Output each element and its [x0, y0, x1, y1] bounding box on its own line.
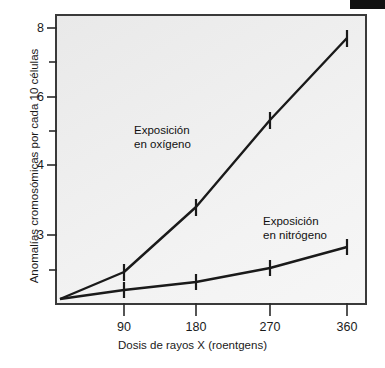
series-annotation-oxigeno-line1: Exposición: [134, 124, 190, 136]
chart-figure: 8 6 4 3 90 180 270 360 Anomalías cromosó…: [0, 0, 385, 368]
series-annotation-nitrogeno-line2: en nitrógeno: [263, 228, 327, 242]
x-axis-label: Dosis de rayos X (roentgens): [0, 339, 385, 351]
plot-area: [55, 14, 367, 305]
y-axis-label: Anomalías cromosómicas por cada 10 célul…: [28, 46, 40, 286]
x-tick-label-90: 90: [117, 320, 131, 334]
x-tick-label-270: 270: [260, 320, 281, 334]
x-tick-label-360: 360: [337, 320, 358, 334]
series-annotation-oxigeno-line2: en oxígeno: [134, 137, 191, 151]
corner-black-mark: [350, 0, 385, 9]
series-annotation-nitrogeno-line1: Exposición: [263, 215, 319, 227]
x-tick-label-180: 180: [186, 320, 207, 334]
series-annotation-nitrogeno: Exposición en nitrógeno: [263, 214, 327, 242]
series-annotation-oxigeno: Exposición en oxígeno: [134, 123, 191, 151]
y-tick-label-8: 8: [20, 21, 44, 35]
